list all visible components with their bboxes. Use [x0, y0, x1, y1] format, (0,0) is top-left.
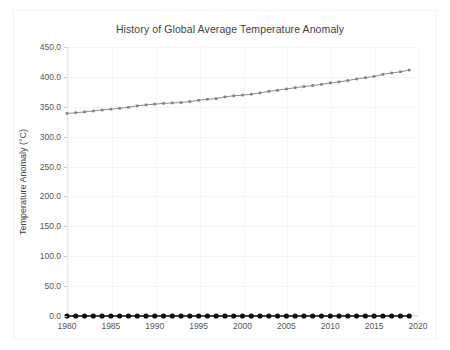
data-point-anomaly [178, 313, 183, 318]
x-axis-tick-label: 2015 [354, 321, 394, 331]
data-point-anomaly [82, 313, 87, 318]
x-axis-tick-label: 2010 [310, 321, 350, 331]
data-point-concentration [101, 109, 104, 112]
data-point-concentration [66, 112, 69, 115]
y-axis-tick-label: 200.0 [15, 191, 61, 201]
data-point-concentration [180, 101, 183, 104]
chart-title: History of Global Average Temperature An… [40, 23, 420, 35]
y-axis-tick-label: 0.0 [15, 311, 61, 321]
data-point-concentration [145, 104, 148, 107]
y-axis-tick-label: 350.0 [15, 102, 61, 112]
data-point-anomaly [117, 313, 122, 318]
data-point-concentration [110, 108, 113, 111]
data-point-concentration [347, 79, 350, 82]
x-axis-tick-label: 2020 [398, 321, 438, 331]
data-point-concentration [83, 111, 86, 114]
data-point-anomaly [266, 313, 271, 318]
data-point-anomaly [170, 313, 175, 318]
data-point-concentration [162, 102, 165, 105]
y-axis-label-text: Temperature Anomaly (°C) [18, 128, 28, 234]
data-point-concentration [171, 102, 174, 105]
data-point-anomaly [345, 313, 350, 318]
data-point-anomaly [407, 313, 412, 318]
y-axis-tick-label: 50.0 [15, 281, 61, 291]
chart-figure: History of Global Average Temperature An… [0, 0, 450, 350]
y-axis-tick-label: 400.0 [15, 72, 61, 82]
data-point-concentration [311, 84, 314, 87]
x-axis-tick-label: 2000 [223, 321, 263, 331]
data-point-anomaly [249, 313, 254, 318]
data-series-layer [67, 47, 418, 316]
data-point-anomaly [284, 313, 289, 318]
data-point-concentration [197, 99, 200, 102]
data-point-concentration [259, 92, 262, 95]
data-point-anomaly [108, 313, 113, 318]
y-axis-tick-mark [64, 107, 67, 108]
data-point-concentration [74, 111, 77, 114]
y-axis-tick-label: 100.0 [15, 251, 61, 261]
data-point-anomaly [310, 313, 315, 318]
y-axis-tick-mark [64, 316, 67, 317]
y-axis-tick-mark [64, 286, 67, 287]
data-point-concentration [408, 69, 411, 72]
series-anomaly [64, 313, 411, 318]
data-point-anomaly [222, 313, 227, 318]
data-point-concentration [224, 96, 227, 99]
y-axis-tick-label: 250.0 [15, 162, 61, 172]
series-concentration [66, 69, 411, 115]
x-axis-tick-label: 1995 [179, 321, 219, 331]
y-axis-tick-mark [64, 77, 67, 78]
data-point-anomaly [301, 313, 306, 318]
data-point-anomaly [231, 313, 236, 318]
y-axis-tick-mark [64, 47, 67, 48]
data-point-anomaly [126, 313, 131, 318]
data-point-concentration [206, 98, 209, 101]
x-axis-tick-label: 2005 [266, 321, 306, 331]
data-point-anomaly [389, 313, 394, 318]
data-point-concentration [215, 97, 218, 100]
data-point-anomaly [187, 313, 192, 318]
data-point-concentration [320, 83, 323, 86]
data-point-anomaly [354, 313, 359, 318]
data-point-concentration [118, 107, 121, 110]
data-point-concentration [92, 110, 95, 113]
x-axis-tick-label: 1980 [47, 321, 87, 331]
data-point-concentration [276, 89, 279, 92]
data-point-anomaly [196, 313, 201, 318]
data-point-anomaly [363, 313, 368, 318]
y-axis-tick-mark [64, 167, 67, 168]
data-point-anomaly [161, 313, 166, 318]
data-point-concentration [250, 93, 253, 96]
data-point-concentration [232, 95, 235, 98]
data-point-concentration [338, 81, 341, 84]
data-point-anomaly [319, 313, 324, 318]
data-point-anomaly [398, 313, 403, 318]
data-point-anomaly [73, 313, 78, 318]
data-point-anomaly [257, 313, 262, 318]
data-point-concentration [136, 105, 139, 108]
data-point-anomaly [91, 313, 96, 318]
y-axis-tick-label: 300.0 [15, 132, 61, 142]
data-point-concentration [303, 85, 306, 88]
data-point-concentration [329, 82, 332, 85]
data-point-concentration [390, 72, 393, 75]
data-point-concentration [399, 71, 402, 74]
data-point-anomaly [328, 313, 333, 318]
data-point-anomaly [205, 313, 210, 318]
gridline-vertical [419, 47, 420, 315]
x-axis-tick-label: 1990 [135, 321, 175, 331]
data-point-concentration [153, 103, 156, 106]
data-point-anomaly [336, 313, 341, 318]
data-point-concentration [355, 78, 358, 81]
data-point-concentration [241, 94, 244, 97]
data-point-anomaly [143, 313, 148, 318]
y-axis-tick-mark [64, 256, 67, 257]
data-point-anomaly [240, 313, 245, 318]
data-point-concentration [382, 73, 385, 76]
data-point-concentration [294, 86, 297, 89]
data-point-anomaly [214, 313, 219, 318]
data-point-anomaly [135, 313, 140, 318]
data-point-anomaly [380, 313, 385, 318]
data-point-concentration [127, 106, 130, 109]
y-axis-tick-label: 150.0 [15, 221, 61, 231]
